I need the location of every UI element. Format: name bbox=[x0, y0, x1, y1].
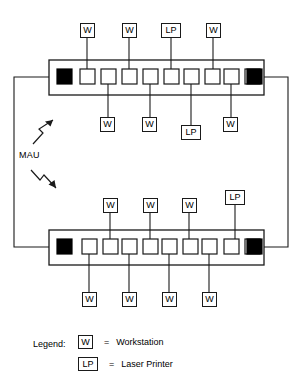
ring-loop-wiring bbox=[14, 77, 288, 247]
mau-top-port-4[interactable] bbox=[143, 69, 158, 84]
mau-top-port-1[interactable] bbox=[80, 69, 95, 84]
device-workstation[interactable]: W bbox=[100, 117, 115, 132]
mau-bottom-ring-out-port[interactable] bbox=[247, 239, 262, 254]
mau-bottom-port-2[interactable] bbox=[103, 239, 118, 254]
mau-top-ring-in-port[interactable] bbox=[57, 69, 72, 84]
mau-top-port-5[interactable] bbox=[164, 69, 179, 84]
legend-row-workstation: W = Workstation bbox=[78, 335, 164, 349]
mau-top-port-7[interactable] bbox=[205, 69, 220, 84]
device-workstation[interactable]: W bbox=[122, 23, 137, 38]
device-workstation[interactable]: W bbox=[202, 292, 217, 307]
ring-cable-right bbox=[262, 77, 288, 247]
mau-bottom-port-8[interactable] bbox=[224, 239, 239, 254]
mau-top-station-ports[interactable] bbox=[80, 69, 260, 84]
device-workstation[interactable]: W bbox=[162, 292, 177, 307]
device-workstation[interactable]: W bbox=[82, 292, 97, 307]
mau-bottom[interactable] bbox=[49, 205, 264, 292]
diagram-canvas bbox=[0, 0, 302, 381]
device-workstation[interactable]: W bbox=[122, 292, 137, 307]
mau-top-port-8[interactable] bbox=[224, 69, 239, 84]
device-workstation[interactable]: W bbox=[142, 117, 157, 132]
mau-bottom-port-3[interactable] bbox=[122, 239, 137, 254]
mau-bottom-port-4[interactable] bbox=[143, 239, 158, 254]
mau-bottom-port-1[interactable] bbox=[82, 239, 97, 254]
legend-title: Legend: bbox=[33, 339, 66, 349]
legend-chip-laser-printer: LP bbox=[78, 357, 98, 371]
legend: Legend: W = Workstation LP = Laser Print… bbox=[0, 334, 302, 381]
mau-bottom-ring-in-port[interactable] bbox=[57, 239, 72, 254]
ring-cable-left bbox=[14, 77, 57, 247]
mau-bottom-port-5[interactable] bbox=[162, 239, 177, 254]
legend-label-laser-printer: Laser Printer bbox=[121, 359, 173, 369]
mau-top-port-2[interactable] bbox=[101, 69, 116, 84]
legend-equals-sign: = bbox=[104, 337, 109, 347]
mau-top-ring-out-port[interactable] bbox=[247, 69, 262, 84]
network-diagram: W W LP W W W LP W W W W LP W W W W MAU L… bbox=[0, 0, 302, 381]
legend-chip-workstation: W bbox=[78, 335, 93, 349]
legend-equals-sign: = bbox=[109, 359, 114, 369]
device-workstation[interactable]: W bbox=[206, 23, 221, 38]
legend-label-workstation: Workstation bbox=[116, 337, 163, 347]
mau-top[interactable] bbox=[49, 38, 264, 125]
mau-annotation-label: MAU bbox=[19, 150, 40, 160]
mau-bottom-station-ports[interactable] bbox=[82, 239, 260, 254]
mau-bottom-port-7[interactable] bbox=[202, 239, 217, 254]
device-workstation[interactable]: W bbox=[103, 198, 118, 213]
device-workstation[interactable]: W bbox=[182, 198, 197, 213]
device-workstation[interactable]: W bbox=[143, 198, 158, 213]
mau-bottom-port-6[interactable] bbox=[183, 239, 198, 254]
mau-callout-arrowhead-up-icon bbox=[45, 120, 53, 127]
device-laser-printer[interactable]: LP bbox=[161, 23, 181, 38]
mau-top-port-6[interactable] bbox=[184, 69, 199, 84]
mau-top-port-3[interactable] bbox=[122, 69, 137, 84]
device-workstation[interactable]: W bbox=[223, 117, 238, 132]
device-workstation[interactable]: W bbox=[80, 23, 95, 38]
legend-row-laser-printer: LP = Laser Printer bbox=[78, 357, 173, 371]
device-laser-printer[interactable]: LP bbox=[181, 125, 201, 140]
device-laser-printer[interactable]: LP bbox=[225, 190, 245, 205]
